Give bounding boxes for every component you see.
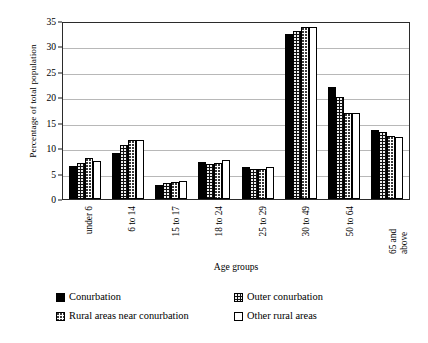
bar	[120, 145, 128, 199]
y-axis-tick-labels: 05101520253035	[34, 0, 56, 343]
bar	[214, 163, 222, 199]
bar	[387, 136, 395, 199]
x-tick-label: 25 to 29	[258, 206, 269, 236]
legend-label: Other rural areas	[247, 311, 317, 321]
bar-group	[242, 23, 274, 199]
bar	[206, 164, 214, 199]
x-tick-label: 18 to 24	[214, 206, 225, 236]
y-tick-mark	[58, 174, 62, 175]
bar	[85, 158, 93, 199]
x-label-slot: 18 to 24	[196, 200, 232, 260]
legend-label: Outer conurbation	[247, 292, 323, 302]
legend-item: Other rural areas	[234, 311, 386, 321]
y-tick-mark	[58, 22, 62, 23]
bar	[285, 34, 293, 199]
dark-dotted-swatch	[234, 293, 243, 302]
bar	[395, 137, 403, 199]
y-tick-label: 0	[34, 195, 56, 205]
x-label-slot: 30 to 49	[283, 200, 319, 260]
x-tick-label: 50 to 64	[345, 206, 356, 236]
y-tick-mark	[58, 149, 62, 150]
bar	[328, 87, 336, 199]
bar-group	[328, 23, 360, 199]
y-tick-label: 10	[34, 144, 56, 154]
legend-label: Rural areas near conurbation	[69, 311, 189, 321]
bar	[93, 161, 101, 199]
bar	[371, 130, 379, 199]
bar	[69, 166, 77, 199]
x-label-slot: 25 to 29	[240, 200, 276, 260]
x-tick-label: 65 and above	[388, 206, 409, 254]
bar-group	[112, 23, 144, 199]
y-tick-label: 30	[34, 43, 56, 53]
x-label-slot: 15 to 17	[153, 200, 189, 260]
y-tick-mark	[58, 98, 62, 99]
y-tick-label: 15	[34, 119, 56, 129]
y-tick-label: 5	[34, 170, 56, 180]
x-tick-label: 30 to 49	[301, 206, 312, 236]
legend-item: Rural areas near conurbation	[56, 311, 234, 321]
legend-item: Conurbation	[56, 292, 234, 302]
bar	[293, 31, 301, 199]
bar	[128, 140, 136, 199]
y-tick-mark	[58, 72, 62, 73]
bar	[222, 160, 230, 199]
bar	[163, 183, 171, 199]
bar	[112, 153, 120, 199]
plot-area	[62, 22, 410, 200]
bar-group	[285, 23, 317, 199]
bar-chart: Percentage of total population 051015202…	[0, 0, 428, 343]
x-axis-title: Age groups	[62, 261, 410, 272]
y-tick-label: 35	[34, 17, 56, 27]
bar-group	[198, 23, 230, 199]
bar	[198, 162, 206, 199]
bar	[242, 167, 250, 199]
bar	[344, 113, 352, 199]
x-axis-tick-labels: under 66 to 1415 to 1718 to 2425 to 2930…	[62, 200, 410, 260]
bar	[250, 169, 258, 199]
bar	[266, 167, 274, 199]
bar	[77, 163, 85, 199]
legend-label: Conurbation	[69, 292, 121, 302]
solid-black-swatch	[56, 293, 65, 302]
bar	[336, 97, 344, 199]
bar-group	[155, 23, 187, 199]
bar	[309, 27, 317, 199]
bar-groups	[63, 23, 409, 199]
bar	[171, 182, 179, 199]
bar	[352, 113, 360, 199]
x-tick-label: under 6	[84, 206, 95, 234]
light-dotted-swatch	[56, 312, 65, 321]
bar	[379, 132, 387, 199]
x-tick-label: 15 to 17	[171, 206, 182, 236]
y-tick-mark	[58, 200, 62, 201]
bar	[179, 181, 187, 199]
white-swatch	[234, 312, 243, 321]
bar-group	[371, 23, 403, 199]
bar	[258, 169, 266, 200]
y-tick-label: 20	[34, 93, 56, 103]
y-tick-mark	[58, 47, 62, 48]
y-tick-mark	[58, 123, 62, 124]
x-label-slot: under 6	[66, 200, 102, 260]
x-label-slot: 6 to 14	[109, 200, 145, 260]
bar	[136, 140, 144, 199]
x-label-slot: 65 and above	[370, 200, 406, 260]
x-tick-label: 6 to 14	[127, 206, 138, 232]
bar	[301, 27, 309, 199]
bar-group	[69, 23, 101, 199]
chart-legend: ConurbationOuter conurbationRural areas …	[56, 288, 386, 326]
x-label-slot: 50 to 64	[327, 200, 363, 260]
bar	[155, 185, 163, 199]
y-tick-label: 25	[34, 68, 56, 78]
legend-item: Outer conurbation	[234, 292, 386, 302]
